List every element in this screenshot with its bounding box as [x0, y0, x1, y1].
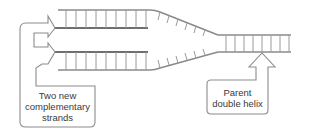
parent-helix-label: Parent double helix	[207, 87, 268, 109]
new-strands-label-line3: strands	[20, 112, 95, 123]
new-strands-label: Two new complementary strands	[20, 90, 95, 123]
new-strands-label-line1: Two new	[20, 90, 95, 101]
new-strands-label-line2: complementary	[20, 101, 95, 112]
parent-helix-label-line1: Parent	[207, 87, 268, 98]
parent-helix-label-line2: double helix	[207, 98, 268, 109]
upper-parent-strand	[58, 10, 218, 36]
lower-daughter-duplex	[55, 52, 148, 70]
parent-double-helix	[218, 35, 291, 52]
upper-daughter-duplex	[55, 10, 148, 28]
